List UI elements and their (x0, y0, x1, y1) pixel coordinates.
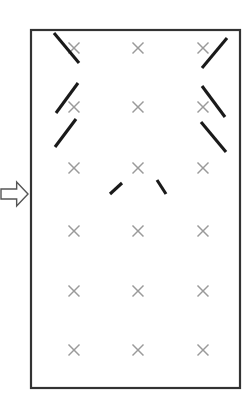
figure-canvas (0, 0, 250, 414)
right-arrow-icon (1, 182, 28, 206)
diagram-svg (0, 0, 250, 414)
panel-border (31, 30, 240, 388)
